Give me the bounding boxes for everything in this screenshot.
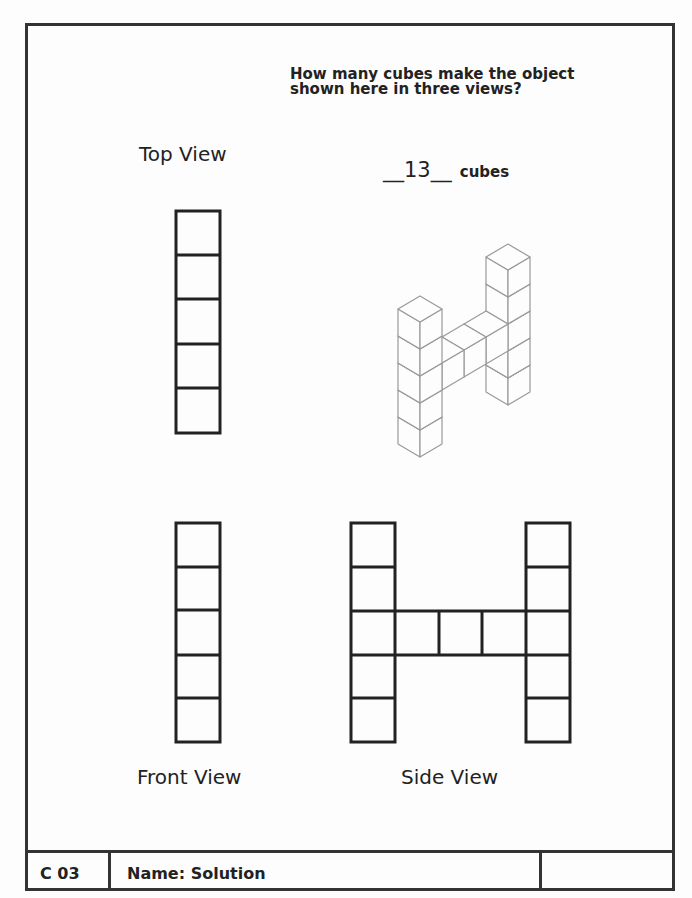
footer-divider-1 [108,850,111,891]
side-view-drawing [351,523,570,742]
name-label: Name: [127,864,185,883]
top-view-drawing [176,211,220,433]
name-field: Name: Solution [127,864,266,883]
isometric-drawing [398,244,530,457]
name-value: Solution [191,864,266,883]
front-view-drawing [176,523,220,742]
sheet-code: C 03 [40,864,80,883]
footer-divider-2 [539,850,542,891]
footer-bar [25,850,675,891]
drawings [0,0,692,898]
